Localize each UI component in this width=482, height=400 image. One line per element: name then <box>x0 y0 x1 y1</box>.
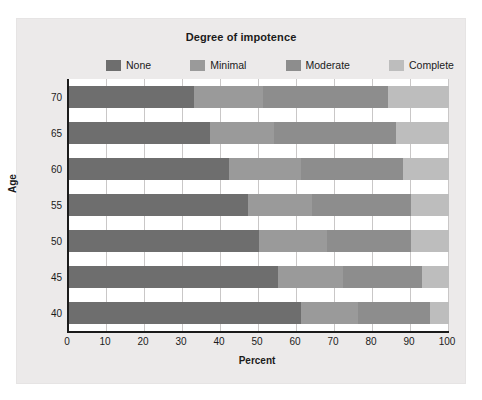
x-tick-label: 50 <box>251 336 262 347</box>
bar-segment-minimal[interactable] <box>248 194 313 216</box>
plot-area <box>67 79 449 333</box>
bar-series-container <box>69 79 449 331</box>
bar-segment-none[interactable] <box>69 122 210 144</box>
y-tick-label: 65 <box>36 128 62 139</box>
bar-segment-complete[interactable] <box>430 302 449 324</box>
y-tick-label: 70 <box>36 92 62 103</box>
bar-segment-moderate[interactable] <box>358 302 430 324</box>
bar-segment-complete[interactable] <box>403 158 449 180</box>
bar-segment-minimal[interactable] <box>194 86 262 108</box>
legend-label: None <box>126 59 151 71</box>
x-tick-label: 40 <box>213 336 224 347</box>
bar-segment-complete[interactable] <box>411 230 449 252</box>
bar-segment-none[interactable] <box>69 230 259 252</box>
bar-row[interactable] <box>69 230 449 252</box>
bar-row[interactable] <box>69 302 449 324</box>
x-axis-tick-labels: 0102030405060708090100 <box>67 336 447 350</box>
y-axis-tick-labels: 70656055504540 <box>30 79 62 331</box>
chart-panel: Degree of impotence NoneMinimalModerateC… <box>16 18 466 384</box>
chart-figure: Degree of impotence NoneMinimalModerateC… <box>0 0 482 400</box>
legend-entry-moderate[interactable]: Moderate <box>286 59 350 71</box>
bar-segment-minimal[interactable] <box>210 122 275 144</box>
x-tick-label: 100 <box>439 336 456 347</box>
y-tick-label: 55 <box>36 200 62 211</box>
bar-segment-none[interactable] <box>69 302 301 324</box>
x-tick-label: 10 <box>99 336 110 347</box>
bar-segment-none[interactable] <box>69 194 248 216</box>
legend-label: Moderate <box>306 59 350 71</box>
bar-row[interactable] <box>69 122 449 144</box>
bar-segment-complete[interactable] <box>422 266 449 288</box>
y-tick-label: 60 <box>36 164 62 175</box>
bar-segment-moderate[interactable] <box>301 158 404 180</box>
legend-label: Minimal <box>210 59 246 71</box>
bar-segment-complete[interactable] <box>388 86 449 108</box>
bar-segment-minimal[interactable] <box>301 302 358 324</box>
y-tick-label: 40 <box>36 308 62 319</box>
bar-segment-none[interactable] <box>69 266 278 288</box>
x-tick-label: 60 <box>289 336 300 347</box>
legend-swatch-icon <box>190 60 205 71</box>
bar-segment-minimal[interactable] <box>259 230 327 252</box>
bar-segment-moderate[interactable] <box>327 230 411 252</box>
bar-row[interactable] <box>69 194 449 216</box>
chart-title: Degree of impotence <box>16 31 466 43</box>
x-tick-label: 90 <box>403 336 414 347</box>
bar-segment-minimal[interactable] <box>278 266 343 288</box>
bar-row[interactable] <box>69 266 449 288</box>
bar-row[interactable] <box>69 86 449 108</box>
bar-segment-moderate[interactable] <box>343 266 423 288</box>
bar-row[interactable] <box>69 158 449 180</box>
x-tick-label: 70 <box>327 336 338 347</box>
bar-segment-complete[interactable] <box>396 122 449 144</box>
x-tick-label: 0 <box>64 336 70 347</box>
legend-entry-none[interactable]: None <box>106 59 151 71</box>
bar-segment-minimal[interactable] <box>229 158 301 180</box>
y-tick-label: 45 <box>36 272 62 283</box>
chart-legend: NoneMinimalModerateComplete <box>106 58 454 72</box>
legend-swatch-icon <box>389 60 404 71</box>
legend-entry-minimal[interactable]: Minimal <box>190 59 246 71</box>
bar-segment-complete[interactable] <box>411 194 449 216</box>
x-tick-label: 80 <box>365 336 376 347</box>
bar-segment-moderate[interactable] <box>274 122 396 144</box>
bar-segment-moderate[interactable] <box>312 194 411 216</box>
y-tick-label: 50 <box>36 236 62 247</box>
bar-segment-none[interactable] <box>69 158 229 180</box>
y-axis-title: Age <box>7 174 18 193</box>
legend-label: Complete <box>409 59 454 71</box>
x-axis-title: Percent <box>67 355 447 366</box>
legend-swatch-icon <box>286 60 301 71</box>
bar-segment-moderate[interactable] <box>263 86 388 108</box>
legend-entry-complete[interactable]: Complete <box>389 59 454 71</box>
x-tick-label: 20 <box>137 336 148 347</box>
bar-segment-none[interactable] <box>69 86 194 108</box>
x-tick-label: 30 <box>175 336 186 347</box>
legend-swatch-icon <box>106 60 121 71</box>
